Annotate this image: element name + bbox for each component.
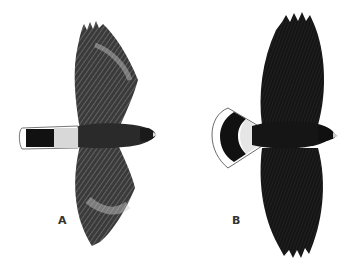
hawk-a-lower-wing xyxy=(75,145,135,246)
hawk-b-lower-wing xyxy=(261,148,323,258)
hawks-drawing xyxy=(0,0,355,277)
hawk-b xyxy=(212,12,338,258)
hawk-a-label: A xyxy=(58,214,67,227)
hawk-illustration-figure: A B xyxy=(0,0,355,277)
hawk-b-upper-wing xyxy=(261,12,325,125)
hawk-b-label: B xyxy=(232,214,240,227)
hawk-a xyxy=(19,21,157,246)
